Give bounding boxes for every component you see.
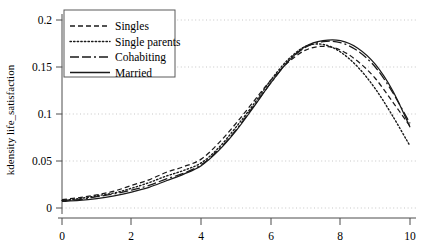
x-tick-labels: 0 2 4 6 8 10 bbox=[59, 230, 416, 242]
legend-label-single-parents: Single parents bbox=[115, 36, 181, 49]
x-axis bbox=[58, 218, 416, 225]
y-axis-label-text: kdensity life_satisfaction bbox=[4, 64, 16, 175]
y-axis-label: kdensity life_satisfaction bbox=[4, 64, 16, 175]
legend-label-cohabiting: Cohabiting bbox=[115, 51, 166, 64]
legend-label-married: Married bbox=[115, 67, 152, 79]
x-tick-label-4: 4 bbox=[198, 230, 204, 242]
y-axis bbox=[56, 14, 62, 214]
x-tick-label-10: 10 bbox=[404, 230, 416, 242]
y-tick-labels: 0.2 0.15 0.1 0.05 0 bbox=[32, 14, 52, 214]
chart-canvas: kdensity life_satisfaction 0.2 0.15 0.1 … bbox=[0, 0, 428, 250]
y-tick-label-0.05: 0.05 bbox=[32, 155, 52, 167]
y-tick-label-0: 0 bbox=[46, 202, 52, 214]
chart-legend: SinglesSingle parentsCohabitingMarried bbox=[64, 10, 181, 79]
x-tick-label-0: 0 bbox=[59, 230, 65, 242]
x-tick-label-6: 6 bbox=[268, 230, 274, 242]
kdensity-chart-figure: kdensity life_satisfaction 0.2 0.15 0.1 … bbox=[0, 0, 428, 250]
y-tick-label-0.15: 0.15 bbox=[32, 61, 52, 73]
x-tick-label-8: 8 bbox=[337, 230, 343, 242]
x-tick-label-2: 2 bbox=[128, 230, 134, 242]
legend-label-singles: Singles bbox=[115, 20, 149, 33]
y-tick-label-0.1: 0.1 bbox=[38, 108, 53, 120]
y-tick-label-0.2: 0.2 bbox=[38, 14, 53, 26]
